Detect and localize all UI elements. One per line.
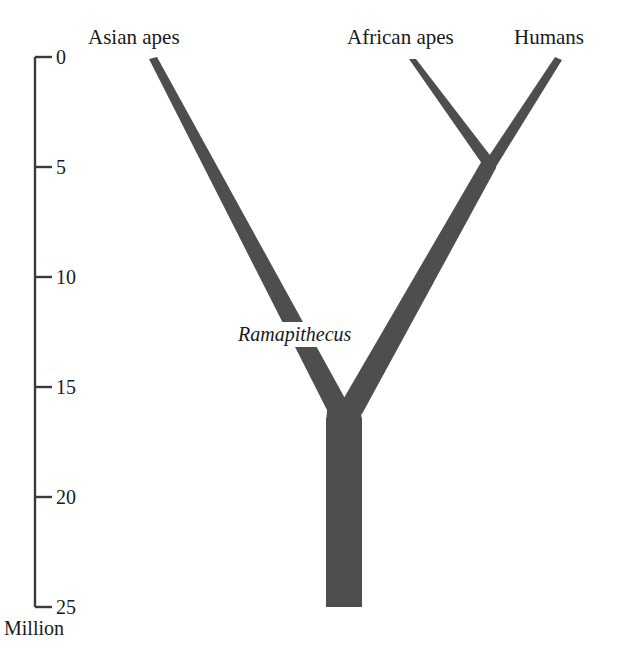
figure-root: 0 5 10 15 20 25 Million Asian apes Afric… — [0, 0, 626, 648]
axis-tick-label-0: 0 — [56, 47, 66, 67]
branch-african-apes — [409, 59, 496, 168]
branch-asian-apes — [149, 57, 347, 412]
axis-tick-label-10: 10 — [56, 267, 76, 287]
axis-tick-label-5: 5 — [56, 157, 66, 177]
axis-unit-label: Million — [4, 618, 64, 638]
tip-label-humans: Humans — [514, 27, 584, 48]
tip-label-african-apes: African apes — [347, 27, 454, 48]
axis-tick-label-20: 20 — [56, 487, 76, 507]
axis-tick-label-15: 15 — [56, 377, 76, 397]
time-axis — [35, 57, 52, 607]
branch-to-african-human-node — [341, 152, 496, 414]
tree-branches — [149, 57, 562, 607]
branch-humans — [483, 57, 562, 170]
tip-label-asian-apes: Asian apes — [88, 27, 180, 48]
axis-tick-label-25: 25 — [56, 597, 76, 617]
branch-root-trunk — [326, 418, 362, 607]
taxon-label-ramapithecus: Ramapithecus — [235, 322, 354, 347]
